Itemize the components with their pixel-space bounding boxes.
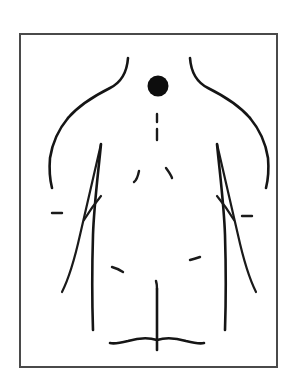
- body-diagram-figure: filled circular lesion marker Anterior t…: [0, 0, 294, 385]
- body-diagram-canvas: filled circular lesion marker: [0, 0, 294, 385]
- lesion-marker[interactable]: filled circular lesion marker: [148, 76, 169, 97]
- lesion-markers-group: filled circular lesion marker: [148, 76, 169, 97]
